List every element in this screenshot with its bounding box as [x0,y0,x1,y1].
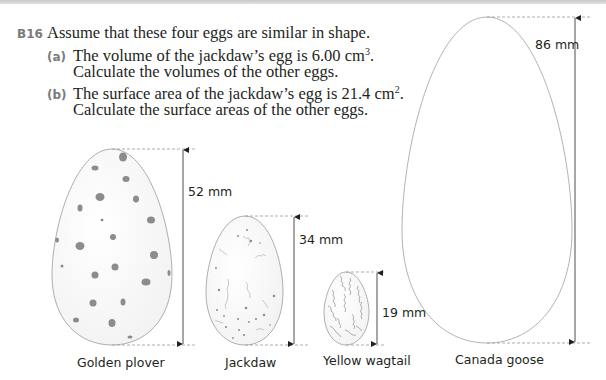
jackdaw-height-label: 34 mm [299,232,343,247]
yellow-wagtail-caption: Yellow wagtail [323,353,411,368]
yellow-wagtail-height-label: 19 mm [382,305,426,320]
yellow-wagtail-egg [324,272,369,345]
canada-goose-height-label: 86 mm [535,37,579,52]
jackdaw-caption: Jackdaw [225,355,276,370]
jackdaw-egg [206,216,283,345]
golden-plover-height-label: 52 mm [188,184,232,199]
canada-goose-egg [402,17,572,343]
eggs-figure [0,0,606,380]
canada-goose-caption: Canada goose [455,352,544,367]
golden-plover-caption: Golden plover [77,355,165,370]
golden-plover-egg [52,149,172,345]
